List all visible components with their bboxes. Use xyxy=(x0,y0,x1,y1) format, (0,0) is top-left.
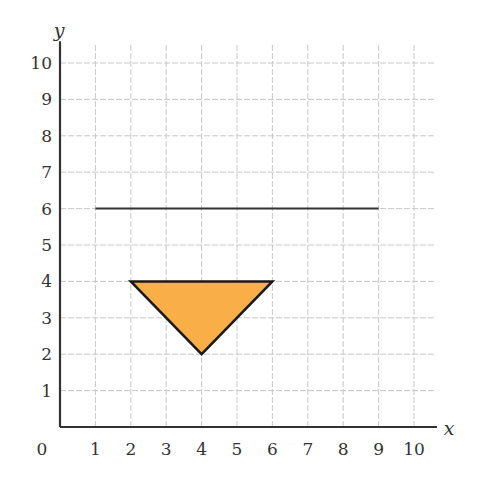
y-tick-label: 4 xyxy=(41,271,52,291)
y-tick-label: 9 xyxy=(41,89,52,109)
y-tick-label: 7 xyxy=(41,162,52,182)
x-tick-label: 10 xyxy=(403,439,425,459)
x-tick-label: 6 xyxy=(267,439,278,459)
y-tick-label: 5 xyxy=(41,235,52,255)
x-tick-label: 7 xyxy=(302,439,313,459)
origin-label: 0 xyxy=(37,439,48,459)
grid-lines xyxy=(60,45,435,427)
x-tick-label: 4 xyxy=(196,439,207,459)
coordinate-grid-chart: 12345678910123456789100xy xyxy=(0,0,477,479)
x-tick-label: 3 xyxy=(161,439,172,459)
x-tick-label: 9 xyxy=(373,439,384,459)
y-tick-label: 2 xyxy=(41,344,52,364)
x-tick-label: 8 xyxy=(338,439,349,459)
y-tick-label: 6 xyxy=(41,199,52,219)
y-tick-label: 3 xyxy=(41,308,52,328)
y-tick-label: 1 xyxy=(41,381,52,401)
y-axis-label: y xyxy=(53,19,65,41)
y-tick-label: 8 xyxy=(41,126,52,146)
y-tick-label: 10 xyxy=(30,53,52,73)
tick-labels: 12345678910123456789100xy xyxy=(30,19,454,459)
x-tick-label: 2 xyxy=(125,439,136,459)
x-axis-label: x xyxy=(444,417,455,439)
x-tick-label: 1 xyxy=(90,439,101,459)
x-tick-label: 5 xyxy=(232,439,243,459)
